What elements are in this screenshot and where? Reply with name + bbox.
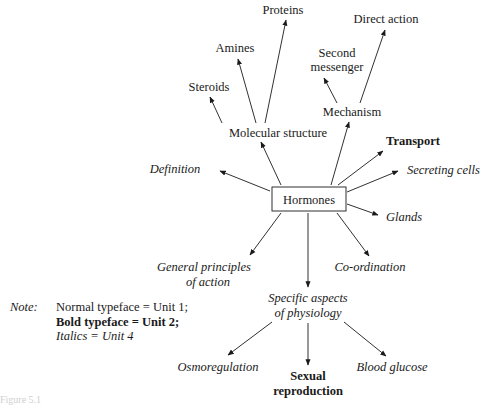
- edge-molecular-steroids: [210, 97, 222, 123]
- node-steroids: Steroids: [189, 80, 230, 94]
- node-amines: Amines: [216, 41, 255, 55]
- note-line-bold: Bold typeface = Unit 2;: [56, 315, 188, 330]
- note-line-italic: Italics = Unit 4: [56, 329, 188, 344]
- node-transport: Transport: [386, 134, 441, 148]
- edge-hormones-molecular-structure: [261, 142, 281, 185]
- node-hormones: Hormones: [283, 193, 335, 207]
- edge-hormones-mechanism: [331, 122, 349, 185]
- node-osmoregulation: Osmoregulation: [178, 360, 259, 374]
- edge-molecular-amines: [238, 59, 256, 123]
- note-legend: Note: Normal typeface = Unit 1; Bold typ…: [10, 300, 188, 344]
- node-blood-glucose: Blood glucose: [356, 360, 428, 374]
- edge-hormones-secreting-cells: [347, 171, 398, 192]
- edge-specific-osmoregulation: [228, 322, 272, 355]
- node-secreting-cells: Secreting cells: [407, 163, 480, 177]
- node-specific-aspects-line2: of physiology: [274, 306, 341, 320]
- edge-hormones-general-principles: [250, 213, 281, 255]
- figure-caption: Figure 5.1: [0, 394, 41, 405]
- node-sexual-reproduction-line1: Sexual: [290, 369, 326, 383]
- note-key: Note:: [10, 300, 56, 344]
- note-line-normal: Normal typeface = Unit 1;: [56, 300, 188, 315]
- edge-hormones-glands: [347, 204, 378, 215]
- node-definition: Definition: [149, 162, 201, 176]
- node-coordination: Co-ordination: [334, 260, 405, 274]
- node-second-messenger-line1: Second: [319, 46, 357, 60]
- edge-molecular-proteins: [265, 20, 286, 123]
- node-direct-action: Direct action: [354, 12, 420, 26]
- node-mechanism: Mechanism: [323, 105, 382, 119]
- node-sexual-reproduction-line2: reproduction: [273, 384, 343, 398]
- edge-mechanism-direct-action: [360, 30, 385, 103]
- edge-hormones-coordination: [337, 213, 369, 256]
- node-second-messenger-line2: messenger: [311, 60, 365, 74]
- node-glands: Glands: [386, 210, 422, 224]
- node-specific-aspects-line1: Specific aspects: [268, 291, 348, 305]
- edge-specific-blood-glucose: [344, 322, 386, 356]
- node-proteins: Proteins: [263, 3, 304, 17]
- edge-mechanism-second-messenger: [324, 78, 337, 103]
- node-general-principles-line2: of action: [186, 275, 230, 289]
- node-general-principles-line1: General principles: [157, 260, 251, 274]
- edge-hormones-definition: [220, 171, 270, 191]
- node-molecular-structure: Molecular structure: [229, 126, 328, 140]
